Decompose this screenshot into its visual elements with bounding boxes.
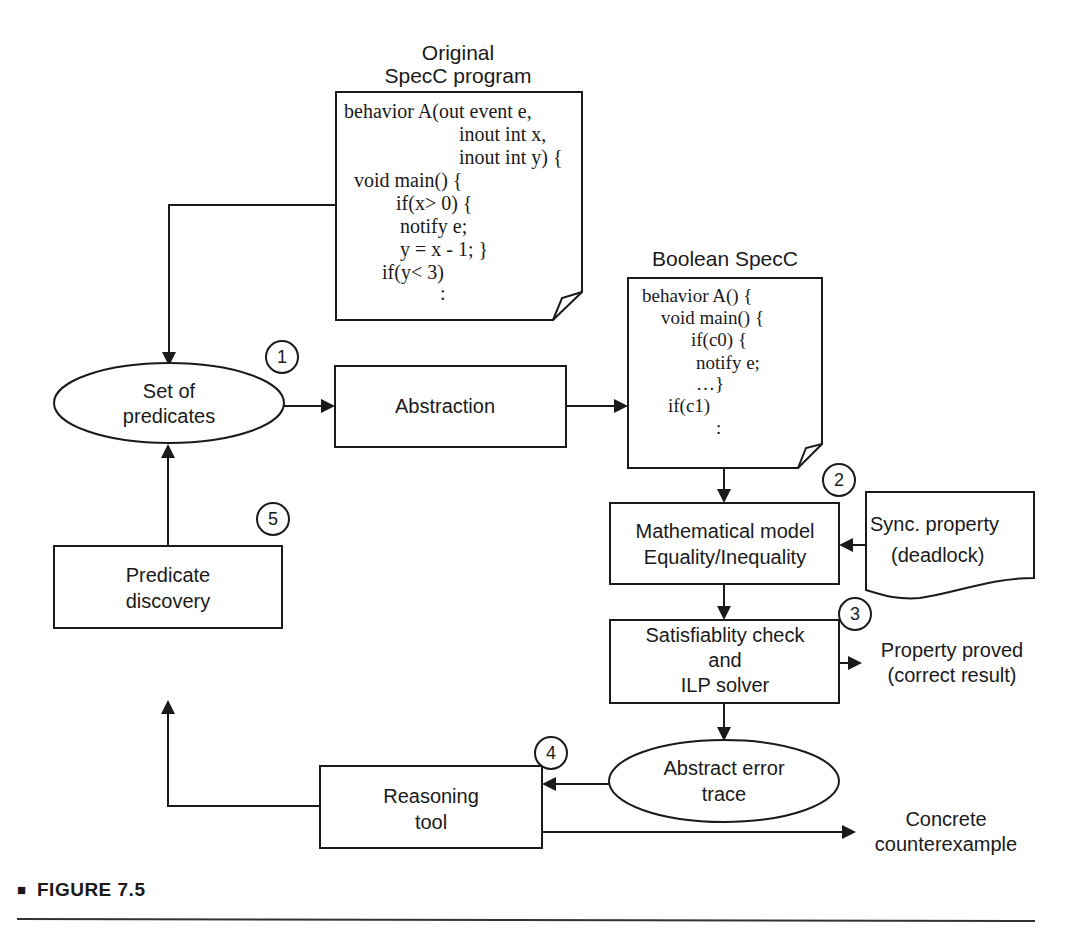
property-proved-label-1: Property proved [881,639,1023,661]
code-line: if(y< 3) [382,261,444,284]
concrete-counterexample-label-1: Concrete [905,808,986,830]
sync-property-node: Sync. property (deadlock) [866,492,1034,598]
abstract-error-trace-label-2: trace [702,783,746,805]
sat-check-node: 3 Satisfiablity check and ILP solver [610,598,871,703]
predicate-discovery-node: 5 Predicate discovery [54,503,289,628]
code-line: behavior A() { [642,285,752,307]
property-proved-label-2: (correct result) [888,664,1017,686]
code-line: inout int y) { [459,146,563,169]
code-line: void main() { [661,307,764,329]
code-line: if(x> 0) { [396,192,472,215]
boolean-program-title: Boolean SpecC [652,247,798,270]
set-of-predicates-ellipse [54,363,284,443]
concrete-counterexample-node: Concrete counterexample [875,808,1017,855]
property-proved-node: Property proved (correct result) [881,639,1023,686]
code-line: void main() { [354,169,462,192]
code-line: y = x - 1; } [400,238,488,261]
step-number-2: 2 [834,470,844,490]
sat-check-label-1: Satisfiablity check [646,624,806,646]
reasoning-tool-node: 4 Reasoning tool [320,737,567,848]
sync-property-label-2: (deadlock) [891,544,984,566]
original-program-title-2: SpecC program [384,64,531,87]
caption-rule [17,919,1035,921]
code-line: notify e; [400,215,467,238]
code-line: …} [696,373,724,394]
abstract-error-trace-node: Abstract error trace [609,740,839,822]
code-line: if(c0) { [691,329,747,351]
code-line: : [440,282,446,304]
original-program-node: Original SpecC program behavior A(out ev… [336,41,582,320]
original-program-title-1: Original [422,41,494,64]
step-number-4: 4 [546,743,556,763]
set-of-predicates-label-2: predicates [123,405,215,427]
arrow-original-to-predicates [169,205,336,364]
figure-caption: ■ FIGURE 7.5 [17,879,1035,921]
predicate-discovery-label-2: discovery [126,590,210,612]
reasoning-tool-label-1: Reasoning [383,785,479,807]
code-line: notify e; [696,352,760,373]
boolean-program-node: Boolean SpecC behavior A() { void main()… [628,247,822,468]
sync-property-label-1: Sync. property [870,513,999,535]
reasoning-tool-label-2: tool [415,811,447,833]
code-line: : [716,417,721,438]
math-model-label-1: Mathematical model [636,520,815,542]
code-line: behavior A(out event e, [344,100,532,123]
math-model-label-2: Equality/Inequality [644,546,806,568]
math-model-node: 2 Mathematical model Equality/Inequality [610,464,855,584]
concrete-counterexample-label-2: counterexample [875,833,1017,855]
abstract-error-trace-label-1: Abstract error [663,757,784,779]
figure-label: FIGURE 7.5 [37,879,145,900]
sat-check-label-3: ILP solver [681,674,770,696]
math-model-box [610,503,839,584]
step-number-3: 3 [850,604,860,624]
step-number-1: 1 [277,347,287,367]
abstract-error-trace-ellipse [609,740,839,822]
code-line: inout int x, [459,123,546,145]
caption-marker-icon: ■ [17,881,26,898]
abstraction-label: Abstraction [395,395,495,417]
reasoning-tool-box [320,766,542,848]
set-of-predicates-node: Set of predicates 1 [54,341,298,443]
arrow-reasoning-to-discovery [168,702,320,806]
cegar-flow-diagram: Original SpecC program behavior A(out ev… [0,0,1085,930]
step-number-5: 5 [268,509,278,529]
predicate-discovery-label-1: Predicate [126,564,211,586]
abstraction-node: Abstraction [335,366,566,447]
set-of-predicates-label-1: Set of [143,380,196,402]
sat-check-label-2: and [708,649,741,671]
code-line: if(c1) [668,395,710,417]
predicate-discovery-box [54,546,282,628]
